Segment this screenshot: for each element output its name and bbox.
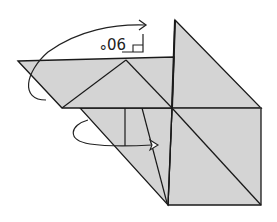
right-angle-box-icon <box>133 45 143 52</box>
angle-label: 90° <box>99 34 126 52</box>
origami-diagram: 90° <box>0 0 277 222</box>
lower-flap <box>80 108 172 205</box>
upright-triangle-flap <box>172 20 261 108</box>
